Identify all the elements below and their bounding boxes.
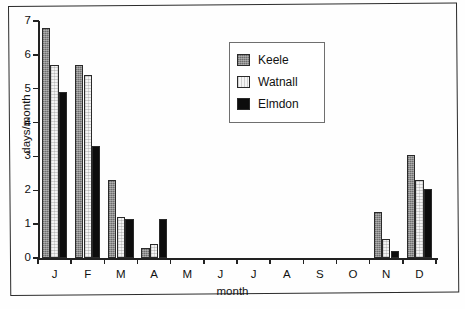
bar-elmdon-M-2 [125, 219, 133, 258]
x-tick-label-10: N [373, 268, 399, 280]
x-tick-2 [104, 258, 106, 264]
x-tick-label-7: A [274, 268, 300, 280]
bar-elmdon-F-1 [92, 146, 100, 258]
x-tick-3 [137, 258, 139, 264]
bar-keele-J-0 [42, 28, 50, 258]
x-axis-line [38, 258, 438, 260]
x-tick-11 [402, 258, 404, 264]
bar-keele-F-1 [75, 65, 83, 258]
x-tick-label-0: J [42, 268, 68, 280]
bar-watnall-F-1 [84, 75, 92, 258]
bar-keele-N-10 [374, 212, 382, 258]
bar-keele-D-11 [407, 155, 415, 258]
y-tick-label-1: 1 [0, 218, 31, 229]
bar-elmdon-A-3 [159, 219, 167, 258]
bar-watnall-J-0 [50, 65, 58, 258]
bar-watnall-D-11 [415, 180, 423, 258]
bar-watnall-A-3 [150, 244, 158, 258]
bar-keele-A-3 [141, 248, 149, 258]
x-tick-label-1: F [75, 268, 101, 280]
y-tick-label-6: 6 [0, 49, 31, 60]
x-tick-9 [336, 258, 338, 264]
y-tick-label-5: 5 [0, 83, 31, 94]
x-tick-10 [369, 258, 371, 264]
legend-label-keele: Keele [258, 54, 289, 66]
x-tick-0 [37, 258, 39, 264]
legend-swatch-watnall [237, 76, 250, 88]
y-tick-label-4: 4 [0, 117, 31, 128]
bar-watnall-N-10 [382, 239, 390, 258]
legend-label-elmdon: Elmdon [258, 98, 299, 110]
x-tick-label-9: O [340, 268, 366, 280]
y-tick-label-0: 0 [0, 252, 31, 263]
x-axis-title: month [0, 285, 465, 297]
x-tick-5 [203, 258, 205, 264]
chart-legend: Keele Watnall Elmdon [229, 42, 325, 123]
y-tick-label-3: 3 [0, 150, 31, 161]
legend-swatch-elmdon [237, 98, 250, 110]
x-tick-8 [303, 258, 305, 264]
x-tick-label-11: D [406, 268, 432, 280]
x-tick-label-4: M [174, 268, 200, 280]
y-tick-label-7: 7 [0, 15, 31, 26]
x-tick-label-6: J [241, 268, 267, 280]
legend-label-watnall: Watnall [258, 76, 298, 88]
legend-item-keele: Keele [237, 49, 317, 71]
x-tick-6 [236, 258, 238, 264]
bar-elmdon-N-10 [391, 251, 399, 258]
legend-item-elmdon: Elmdon [237, 93, 317, 115]
x-tick-label-2: M [108, 268, 134, 280]
bar-keele-M-2 [108, 180, 116, 258]
x-tick-1 [70, 258, 72, 264]
x-tick-label-8: S [307, 268, 333, 280]
x-tick-7 [269, 258, 271, 264]
legend-swatch-keele [237, 54, 250, 66]
y-tick-label-2: 2 [0, 184, 31, 195]
bar-watnall-M-2 [117, 217, 125, 258]
legend-item-watnall: Watnall [237, 71, 317, 93]
bar-elmdon-J-0 [59, 92, 67, 258]
x-tick-4 [170, 258, 172, 264]
bar-elmdon-D-11 [424, 189, 432, 258]
figure-container: days/month month 01234567 JFMAMJJASOND K… [0, 0, 465, 309]
x-tick-12 [435, 258, 437, 264]
x-tick-label-5: J [207, 268, 233, 280]
x-tick-label-3: A [141, 268, 167, 280]
